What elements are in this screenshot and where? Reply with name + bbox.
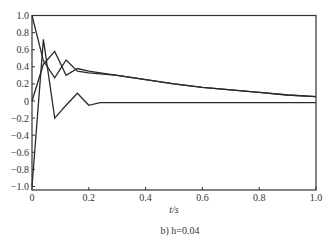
y-tick-label: −0.8 bbox=[11, 164, 29, 175]
x-tick-label: 0.8 bbox=[253, 192, 266, 203]
y-axis: 1.00.80.60.40.20−0.2−0.4−0.6−0.8−1.0 bbox=[11, 10, 35, 192]
x-tick-label: 0.2 bbox=[83, 192, 96, 203]
series-group bbox=[32, 16, 316, 187]
y-tick-label: 0.4 bbox=[17, 61, 30, 72]
y-tick-label: −0.2 bbox=[11, 113, 29, 124]
y-tick-label: 1.0 bbox=[17, 10, 30, 21]
figure-caption: b) h=0.04 bbox=[161, 225, 200, 237]
y-tick-label: −0.4 bbox=[11, 130, 29, 141]
x-tick-label: 1.0 bbox=[310, 192, 323, 203]
y-tick-label: −0.6 bbox=[11, 147, 29, 158]
line-chart: 1.00.80.60.40.20−0.2−0.4−0.6−0.8−1.0 00.… bbox=[0, 0, 326, 243]
series-line-curve-3 bbox=[32, 39, 316, 186]
x-axis-title: t/s bbox=[169, 204, 179, 215]
y-tick-label: 0 bbox=[24, 96, 29, 107]
x-axis: 00.20.40.60.81.0 bbox=[30, 187, 323, 203]
y-tick-label: −1.0 bbox=[11, 181, 29, 192]
x-tick-label: 0.4 bbox=[139, 192, 152, 203]
y-tick-label: 0.2 bbox=[17, 78, 30, 89]
y-tick-label: 0.8 bbox=[17, 27, 30, 38]
x-tick-label: 0.6 bbox=[196, 192, 209, 203]
x-tick-label: 0 bbox=[30, 192, 35, 203]
series-line-curve-2 bbox=[32, 51, 316, 101]
y-tick-label: 0.6 bbox=[17, 44, 30, 55]
